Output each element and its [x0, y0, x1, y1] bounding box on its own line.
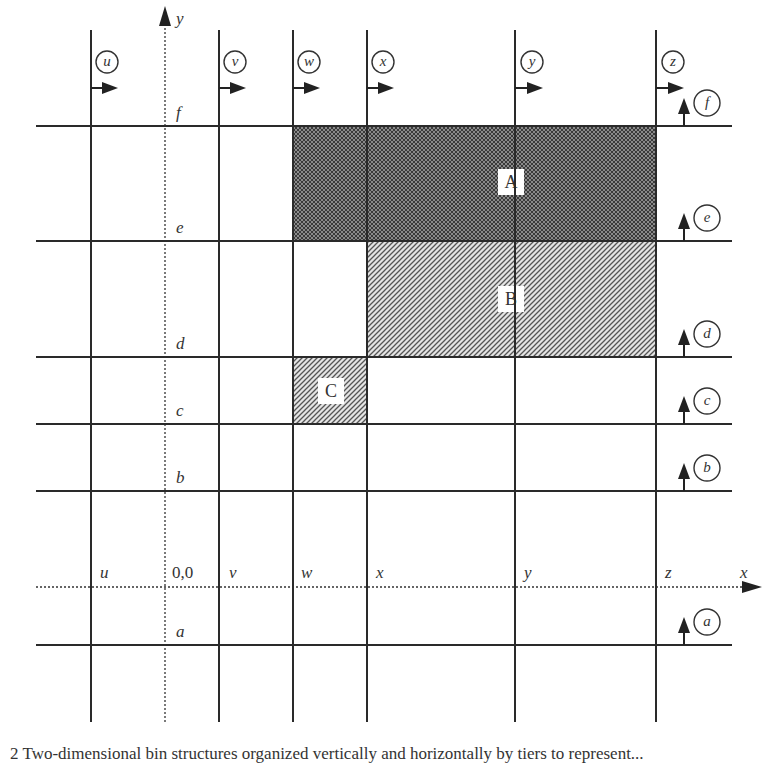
vertical-tier-markers: u v w x y z [91, 51, 684, 94]
arrow-up-icon [678, 213, 690, 229]
svg-text:a: a [703, 613, 711, 629]
marker-x: x [367, 51, 394, 94]
arrow-right-icon [102, 82, 118, 94]
svg-text:w: w [304, 53, 314, 69]
marker-w: w [293, 51, 320, 94]
region-c: C [293, 357, 367, 424]
marker-a: a [678, 609, 720, 645]
marker-e: e [678, 205, 720, 241]
tier-label-z: z [664, 563, 672, 582]
arrow-right-icon [378, 82, 394, 94]
arrow-right-icon [230, 82, 246, 94]
arrow-right-icon [668, 82, 684, 94]
svg-text:b: b [703, 459, 711, 475]
tier-label-c: c [176, 401, 184, 420]
arrow-up-icon [678, 463, 690, 479]
marker-u: u [91, 51, 118, 94]
svg-text:u: u [103, 53, 111, 69]
figure-caption: 2 Two-dimensional bin structures organiz… [0, 744, 784, 764]
tier-label-w: w [301, 563, 313, 582]
svg-text:x: x [379, 53, 387, 69]
svg-text:y: y [527, 53, 536, 69]
marker-c: c [678, 388, 720, 424]
tier-label-d: d [176, 334, 185, 353]
arrow-up-icon [678, 98, 690, 114]
tier-label-e: e [176, 218, 184, 237]
x-axis-arrow-icon [742, 581, 762, 593]
svg-text:v: v [232, 53, 239, 69]
marker-f: f [678, 90, 720, 126]
tier-label-u: u [100, 563, 109, 582]
marker-v: v [219, 51, 246, 94]
svg-text:e: e [704, 209, 711, 225]
marker-y: y [515, 51, 543, 94]
tier-label-f: f [176, 103, 183, 122]
region-a: A [293, 126, 656, 241]
tier-label-v: v [229, 563, 237, 582]
arrow-up-icon [678, 617, 690, 633]
arrow-up-icon [678, 329, 690, 345]
y-axis-arrow-icon [159, 6, 171, 26]
tier-label-a: a [176, 622, 185, 641]
arrow-right-icon [527, 82, 543, 94]
origin-label: 0,0 [172, 563, 193, 582]
region-b: B [367, 241, 656, 357]
x-axis: x [36, 563, 762, 593]
tier-label-x: x [375, 563, 384, 582]
marker-z: z [656, 51, 684, 94]
horizontal-tier-labels: f e d c b a [176, 103, 185, 641]
horizontal-tier-markers: f e d c b a [678, 90, 720, 645]
marker-d: d [678, 321, 720, 357]
marker-b: b [678, 455, 720, 491]
tier-label-y: y [522, 563, 532, 582]
x-axis-label: x [739, 563, 748, 582]
y-axis-label: y [174, 9, 184, 28]
arrow-right-icon [304, 82, 320, 94]
svg-text:d: d [703, 325, 711, 341]
svg-text:z: z [669, 53, 676, 69]
tier-label-b: b [176, 468, 185, 487]
region-c-label: C [325, 381, 337, 401]
arrow-up-icon [678, 396, 690, 412]
svg-text:c: c [704, 392, 711, 408]
